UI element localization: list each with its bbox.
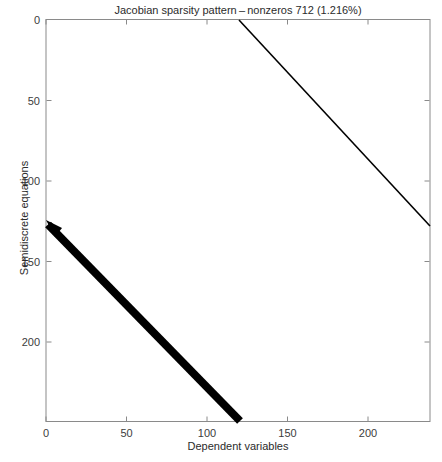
x-tick-label-0: 0 xyxy=(43,428,49,439)
y-tick-label-50: 50 xyxy=(8,95,40,106)
axes-frame xyxy=(46,20,430,422)
x-tick-label-100: 100 xyxy=(198,428,216,439)
y-tick-label-0: 0 xyxy=(8,14,40,25)
y-tick-label-200: 200 xyxy=(8,337,40,348)
plot-area xyxy=(0,0,442,462)
x-axis-label: Dependent variables xyxy=(46,440,430,452)
x-tick-label-200: 200 xyxy=(359,428,377,439)
x-tick-label-150: 150 xyxy=(278,428,296,439)
y-axis-label: Semidiscrete equations xyxy=(18,118,30,318)
figure-canvas: Jacobian sparsity pattern – nonzeros 712… xyxy=(0,0,442,462)
x-tick-label-50: 50 xyxy=(120,428,132,439)
